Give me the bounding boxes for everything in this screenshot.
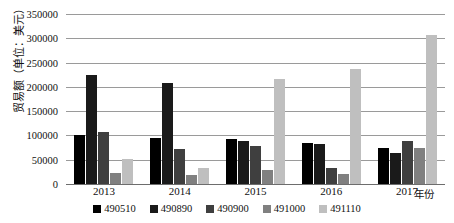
legend-label: 490510 bbox=[104, 203, 136, 214]
y-axis-tick-label: 250000 bbox=[27, 57, 59, 68]
x-axis-tick-label: 2013 bbox=[93, 185, 115, 197]
y-axis-tick-label: 50000 bbox=[32, 154, 58, 165]
legend-swatch-icon bbox=[263, 205, 271, 213]
legend-label: 491110 bbox=[330, 203, 361, 214]
bar bbox=[198, 168, 209, 184]
bar bbox=[378, 148, 389, 184]
bar bbox=[226, 139, 237, 184]
bar bbox=[86, 75, 97, 184]
legend-swatch-icon bbox=[150, 205, 158, 213]
bar bbox=[350, 69, 361, 184]
bar bbox=[186, 175, 197, 184]
legend-item[interactable]: 491110 bbox=[319, 203, 361, 214]
bar bbox=[250, 146, 261, 184]
legend-label: 490900 bbox=[217, 203, 249, 214]
y-axis-tick-label: 0 bbox=[53, 179, 58, 190]
legend-swatch-icon bbox=[206, 205, 214, 213]
bar bbox=[426, 35, 437, 184]
y-axis-tick-label: 150000 bbox=[27, 106, 59, 117]
bar bbox=[162, 83, 173, 184]
legend-item[interactable]: 490510 bbox=[93, 203, 136, 214]
y-axis-tick-label: 100000 bbox=[27, 130, 59, 141]
x-axis-tick-labels: 20132014201520162017 bbox=[66, 185, 445, 203]
bar bbox=[414, 148, 425, 184]
x-axis-tick-label: 2016 bbox=[320, 185, 342, 197]
bar bbox=[122, 159, 133, 184]
legend-label: 491000 bbox=[274, 203, 306, 214]
bar-group bbox=[226, 14, 285, 184]
legend-swatch-icon bbox=[93, 205, 101, 213]
y-axis-tick-label: 300000 bbox=[27, 33, 59, 44]
bar bbox=[262, 170, 273, 184]
y-axis-tick-label: 350000 bbox=[27, 9, 59, 20]
bar bbox=[274, 79, 285, 184]
legend-label: 490890 bbox=[161, 203, 193, 214]
bar bbox=[338, 174, 349, 184]
legend-item[interactable]: 490890 bbox=[150, 203, 193, 214]
bar bbox=[110, 173, 121, 184]
bar-group bbox=[150, 14, 209, 184]
bar bbox=[326, 168, 337, 184]
legend-item[interactable]: 491000 bbox=[263, 203, 306, 214]
bar-group bbox=[378, 14, 437, 184]
bar-chart: 贸易额（单位：美元） 05000010000015000020000025000… bbox=[0, 0, 454, 223]
bar bbox=[98, 132, 109, 184]
bar bbox=[150, 138, 161, 184]
bar bbox=[314, 144, 325, 184]
bar bbox=[402, 141, 413, 184]
x-axis-tick-label: 2014 bbox=[169, 185, 191, 197]
y-axis-tick-label: 200000 bbox=[27, 81, 59, 92]
bar bbox=[390, 153, 401, 184]
x-axis-title: 年份 bbox=[414, 186, 434, 201]
bar bbox=[174, 149, 185, 184]
x-axis-tick-label: 2015 bbox=[244, 185, 266, 197]
bar-group bbox=[302, 14, 361, 184]
bar bbox=[238, 141, 249, 184]
legend-item[interactable]: 490900 bbox=[206, 203, 249, 214]
bar-group bbox=[74, 14, 133, 184]
bar-groups bbox=[66, 14, 445, 184]
bar bbox=[74, 135, 85, 184]
legend-swatch-icon bbox=[319, 205, 327, 213]
chart-legend: 490510490890490900491000491110 bbox=[0, 203, 454, 214]
bar bbox=[302, 143, 313, 184]
y-axis-tick-labels: 0500001000001500002000002500003000003500… bbox=[0, 14, 62, 184]
plot-area bbox=[66, 14, 445, 184]
